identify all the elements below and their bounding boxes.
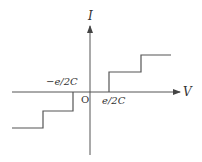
origin-label: O [81,94,89,105]
y-axis-label: I [87,9,93,23]
negative-threshold-label: −e/2C [46,76,78,87]
x-axis-label: V [183,85,193,99]
iv-diagram: I V O −e/2C e/2C [0,0,202,162]
negative-staircase [12,92,73,128]
positive-threshold-label: e/2C [102,95,126,106]
positive-staircase [109,55,171,92]
